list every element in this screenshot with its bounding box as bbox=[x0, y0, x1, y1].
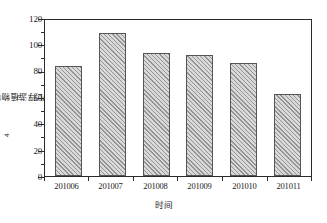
bar-slot-201010 bbox=[222, 20, 266, 176]
x-tick-label-201008: 201008 bbox=[133, 182, 178, 191]
x-axis-tick-1 bbox=[88, 177, 89, 181]
x-axis-tick-2 bbox=[133, 177, 134, 181]
y-tick-label-0: 0 bbox=[2, 173, 42, 182]
y-tick-label-20: 20 bbox=[2, 147, 42, 156]
bar-slot-201006 bbox=[47, 20, 91, 176]
y-tick-label-40: 40 bbox=[2, 120, 42, 129]
x-tick-label-201010: 201010 bbox=[222, 182, 267, 191]
x-tick-label-201009: 201009 bbox=[177, 182, 222, 191]
x-axis-tick-5 bbox=[267, 177, 268, 181]
y-tick-label-80: 80 bbox=[2, 67, 42, 76]
bar-201007[interactable] bbox=[99, 33, 126, 176]
x-tick-label-201011: 201011 bbox=[266, 182, 311, 191]
bar-series bbox=[45, 20, 311, 176]
bar-slot-201009 bbox=[178, 20, 222, 176]
bar-201010[interactable] bbox=[230, 63, 257, 176]
bar-slot-201011 bbox=[265, 20, 309, 176]
chart-container: 浮游植物密度（×104ind./L） 120 100 80 60 40 20 0 bbox=[0, 0, 327, 223]
plot-area bbox=[44, 19, 312, 177]
bar-slot-201007 bbox=[91, 20, 135, 176]
y-tick-label-120: 120 bbox=[2, 15, 42, 24]
bar-201008[interactable] bbox=[143, 53, 170, 177]
y-tick-label-60: 60 bbox=[2, 94, 42, 103]
y-axis-title-exponent: 4 bbox=[3, 133, 10, 137]
x-axis-tick-6 bbox=[311, 177, 312, 181]
bar-201009[interactable] bbox=[186, 55, 213, 176]
bar-201006[interactable] bbox=[55, 66, 82, 177]
x-axis-title: 时间 bbox=[0, 198, 327, 210]
x-axis-tick-0 bbox=[44, 177, 45, 181]
bar-slot-201008 bbox=[134, 20, 178, 176]
x-tick-label-201006: 201006 bbox=[44, 182, 89, 191]
y-tick-label-100: 100 bbox=[2, 41, 42, 50]
x-axis-tick-4 bbox=[222, 177, 223, 181]
x-tick-label-201007: 201007 bbox=[88, 182, 133, 191]
x-axis-tick-3 bbox=[177, 177, 178, 181]
bar-201011[interactable] bbox=[274, 94, 301, 176]
